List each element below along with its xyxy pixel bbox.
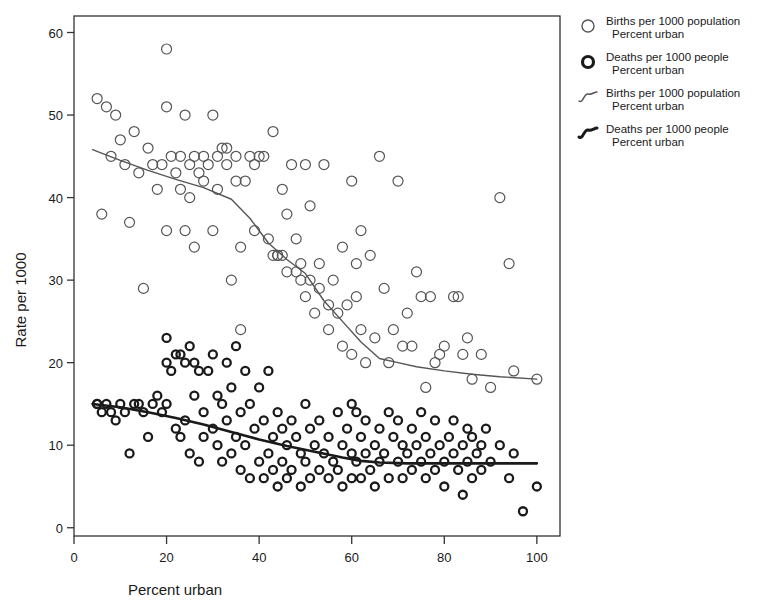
x-axis-title: Percent urban (128, 581, 222, 598)
legend-item-label: Births per 1000 population (606, 15, 740, 27)
legend-item-label: Deaths per 1000 people (606, 123, 729, 135)
y-tick-label: 50 (49, 108, 63, 123)
legend-item-sublabel: Percent urban (612, 100, 684, 112)
y-tick-label: 40 (49, 191, 63, 206)
x-tick-label: 100 (526, 550, 548, 565)
y-tick-label: 60 (49, 26, 63, 41)
x-tick-label: 0 (70, 550, 77, 565)
y-axis-title: Rate per 1000 (12, 252, 29, 347)
x-tick-label: 80 (437, 550, 451, 565)
legend-item-sublabel: Percent urban (612, 136, 684, 148)
x-tick-label: 20 (159, 550, 173, 565)
chart-page: 0102030405060 020406080100 Rate per 1000… (0, 0, 760, 612)
y-tick-label: 10 (49, 438, 63, 453)
legend-item-label: Births per 1000 population (606, 87, 740, 99)
legend-item-sublabel: Percent urban (612, 64, 684, 76)
x-tick-label: 60 (344, 550, 358, 565)
legend-item-sublabel: Percent urban (612, 28, 684, 40)
y-tick-label: 20 (49, 356, 63, 371)
y-tick-label: 0 (56, 521, 63, 536)
scatter-plot-figure: 0102030405060 020406080100 Rate per 1000… (0, 0, 760, 612)
y-tick-label: 30 (49, 273, 63, 288)
x-tick-label: 40 (252, 550, 266, 565)
legend-item-label: Deaths per 1000 people (606, 51, 729, 63)
